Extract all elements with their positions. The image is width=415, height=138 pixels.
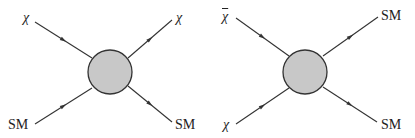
feynman-diagrams: χχSMSMχSMχSM (0, 0, 415, 138)
particle-label: SM (381, 9, 401, 23)
arrow-icon (60, 104, 66, 109)
interaction-vertex-blob (88, 50, 132, 94)
particle-label: SM (175, 118, 195, 132)
particle-label: χ (23, 11, 29, 25)
particle-label: χ (222, 10, 228, 24)
diagram-annihilation (236, 17, 378, 124)
arrow-icon (346, 101, 352, 106)
particle-label: SM (381, 118, 401, 132)
diagram-canvas (0, 0, 415, 138)
particle-label: χ (223, 118, 229, 132)
diagram-scattering (35, 20, 172, 124)
arrow-icon (60, 37, 66, 42)
interaction-vertex-blob (283, 50, 327, 94)
particle-label: SM (8, 118, 28, 132)
arrow-icon (259, 104, 265, 109)
particle-label: χ (176, 11, 182, 25)
